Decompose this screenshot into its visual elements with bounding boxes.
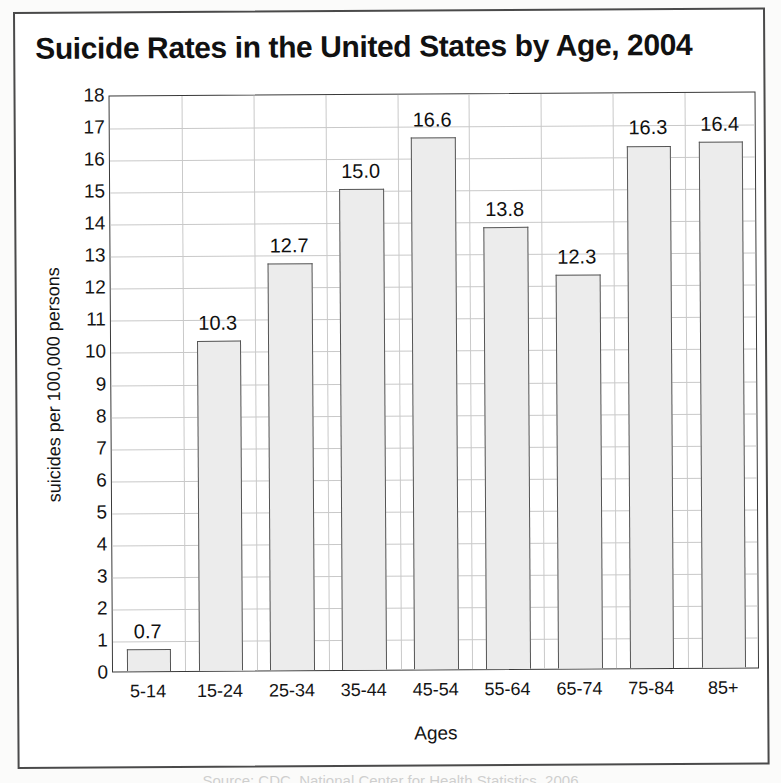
y-axis-tick-label: 11: [66, 309, 106, 331]
y-axis-tick-label: 13: [65, 245, 105, 267]
x-axis-tick-label: 75-84: [628, 678, 674, 699]
bar-value-label: 12.3: [557, 245, 596, 268]
y-axis-tick-label: 9: [66, 373, 106, 395]
y-axis-tick-label: 2: [68, 597, 108, 619]
bar-value-label: 12.7: [270, 234, 309, 257]
x-axis-tick-label: 55-64: [484, 679, 530, 700]
x-axis-tick-label: 25-34: [269, 680, 315, 701]
bar[interactable]: [556, 274, 603, 669]
bar[interactable]: [627, 145, 675, 668]
y-axis-tick-label: 15: [65, 181, 105, 203]
y-axis-tick-label: 18: [64, 84, 104, 106]
bar-value-label: 0.7: [134, 620, 162, 643]
bar[interactable]: [268, 263, 315, 670]
x-axis-tick-label: 35-44: [341, 680, 387, 701]
y-axis-tick-label: 17: [65, 116, 105, 138]
y-axis-tick-label: 3: [67, 565, 107, 587]
bar[interactable]: [339, 189, 386, 670]
y-axis-tick-label: 4: [67, 533, 107, 555]
bar[interactable]: [411, 137, 459, 669]
x-axis-tick-label: 5-14: [130, 681, 166, 702]
bar-value-label: 13.8: [485, 198, 524, 221]
y-axis-tick-label: 7: [67, 437, 107, 459]
y-axis-tick-label: 1: [68, 629, 108, 651]
bar[interactable]: [699, 142, 747, 668]
bar-value-label: 16.4: [700, 113, 739, 136]
figure-frame: Suicide Rates in the United States by Ag…: [13, 7, 770, 769]
bar-value-label: 15.0: [341, 160, 380, 183]
bar-value-label: 10.3: [198, 311, 237, 334]
x-axis-tick-label: 65-74: [556, 678, 602, 699]
plot-area: [109, 91, 760, 672]
bar-value-label: 16.3: [628, 116, 667, 139]
x-axis-title: Ages: [112, 720, 759, 746]
y-axis-tick-label: 10: [66, 341, 106, 363]
y-axis-tick-label: 6: [67, 469, 107, 491]
scan-page: Suicide Rates in the United States by Ag…: [0, 0, 781, 783]
x-axis-tick-label: 15-24: [197, 681, 243, 702]
bar-value-label: 16.6: [413, 108, 452, 131]
plot-wrapper: 01234567891011121314151617180.75-1410.31…: [109, 91, 760, 672]
chart-title: Suicide Rates in the United States by Ag…: [35, 28, 747, 66]
bottom-caption: Source: CDC, National Center for Health …: [0, 772, 781, 783]
x-axis-tick-label: 85+: [708, 678, 739, 699]
y-axis-tick-label: 5: [67, 501, 107, 523]
bar[interactable]: [127, 649, 172, 672]
y-axis-tick-label: 16: [65, 149, 105, 171]
y-axis-tick-label: 8: [66, 405, 106, 427]
y-axis-tick-label: 0: [68, 661, 108, 683]
x-axis-tick-label: 45-54: [413, 679, 459, 700]
bar[interactable]: [197, 340, 244, 670]
y-axis-tick-label: 14: [65, 213, 105, 235]
y-axis-tick-label: 12: [66, 277, 106, 299]
bar[interactable]: [483, 226, 530, 669]
